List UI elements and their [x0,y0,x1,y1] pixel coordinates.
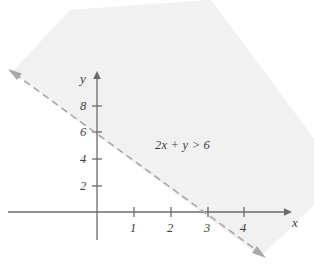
solution-region-shading-upper [12,0,314,255]
y-tick-label-8: 8 [80,100,86,113]
y-tick-label-2: 2 [80,180,86,193]
x-tick-label-1: 1 [130,222,136,235]
x-tick-label-4: 4 [240,222,246,235]
x-tick-label-3: 3 [204,222,210,235]
y-tick-label-4: 4 [80,153,86,166]
x-tick-label-2: 2 [167,222,173,235]
coordinate-plane [0,0,314,272]
inequality-annotation: 2x + y > 6 [155,139,210,152]
graph-figure: y x 8 6 4 2 1 2 3 4 2x + y > 6 [0,0,314,272]
x-axis-label: x [292,216,298,229]
y-tick-label-6: 6 [80,126,86,139]
y-axis-label: y [80,72,86,85]
